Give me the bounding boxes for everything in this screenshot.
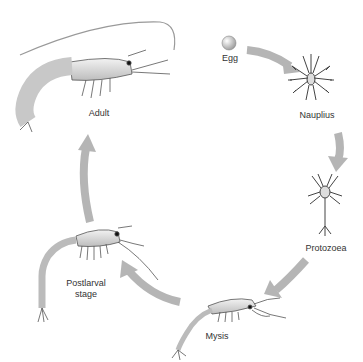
arrow-mysis-to-postlarval xyxy=(120,260,180,302)
postlarval-illustration xyxy=(38,226,158,322)
stage-label-egg: Egg xyxy=(218,53,242,64)
nauplius-illustration xyxy=(288,54,334,100)
arrow-protozoea-to-mysis xyxy=(264,260,306,298)
protozoea-illustration xyxy=(308,174,342,236)
egg-illustration xyxy=(222,36,236,50)
arrow-nauplius-to-protozoea xyxy=(328,133,348,172)
stage-label-mysis: Mysis xyxy=(200,331,234,342)
stage-label-protozoea: Protozoea xyxy=(298,243,354,254)
stage-label-nauplius: Nauplius xyxy=(292,110,342,121)
life-cycle-diagram xyxy=(0,0,363,362)
mysis-illustration xyxy=(172,298,286,360)
arrow-postlarval-to-adult xyxy=(78,134,96,222)
stage-label-postlarval-line1: Postlarval xyxy=(58,278,114,289)
arrow-egg-to-nauplius xyxy=(247,50,300,74)
stage-label-adult: Adult xyxy=(84,108,114,119)
stage-label-postlarval-line2: stage xyxy=(58,289,114,300)
stage-label-postlarval: Postlarval stage xyxy=(58,278,114,300)
